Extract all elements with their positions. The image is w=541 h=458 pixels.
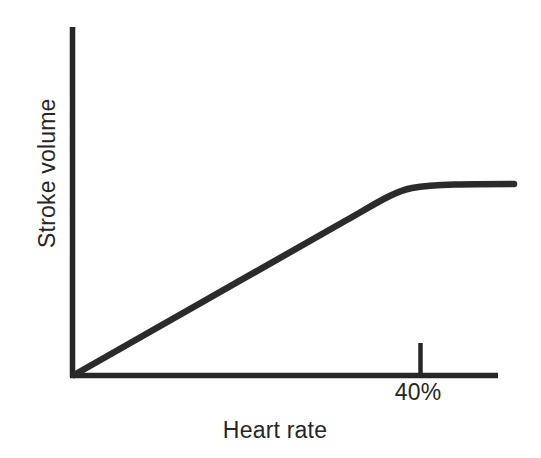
chart-figure: Stroke volume Heart rate 40% bbox=[0, 0, 541, 458]
x-axis-title: Heart rate bbox=[165, 419, 385, 442]
x-axis-tick-label-40: 40% bbox=[368, 381, 468, 404]
y-axis-title: Stroke volume bbox=[36, 158, 59, 248]
stroke-volume-curve bbox=[74, 184, 514, 375]
